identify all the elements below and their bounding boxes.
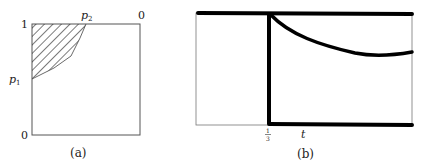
decay-curve <box>271 15 412 55</box>
svg-text:1: 1 <box>266 127 270 134</box>
label-top-left: 1 <box>21 18 28 31</box>
panel-b-box <box>196 13 412 125</box>
panel-b: 1 3 t (b) <box>196 13 412 161</box>
caption-a: (a) <box>70 146 87 160</box>
label-bottom-left: 0 <box>21 129 28 142</box>
svg-text:3: 3 <box>266 135 270 142</box>
hatched-region <box>30 22 90 82</box>
label-p2: p2 <box>81 9 93 23</box>
caption-b: (b) <box>297 147 314 161</box>
top-thick-line <box>198 13 412 14</box>
bottom-thick-line <box>269 124 412 125</box>
panel-a: 1 p2 0 p1 0 (a) <box>9 9 145 160</box>
axis-label-t: t <box>301 128 306 141</box>
tick-one-third: 1 3 <box>265 127 271 142</box>
figure: 1 p2 0 p1 0 (a) 1 3 t (b) <box>0 0 421 168</box>
label-p1: p1 <box>9 73 21 87</box>
label-top-right: 0 <box>138 9 145 22</box>
